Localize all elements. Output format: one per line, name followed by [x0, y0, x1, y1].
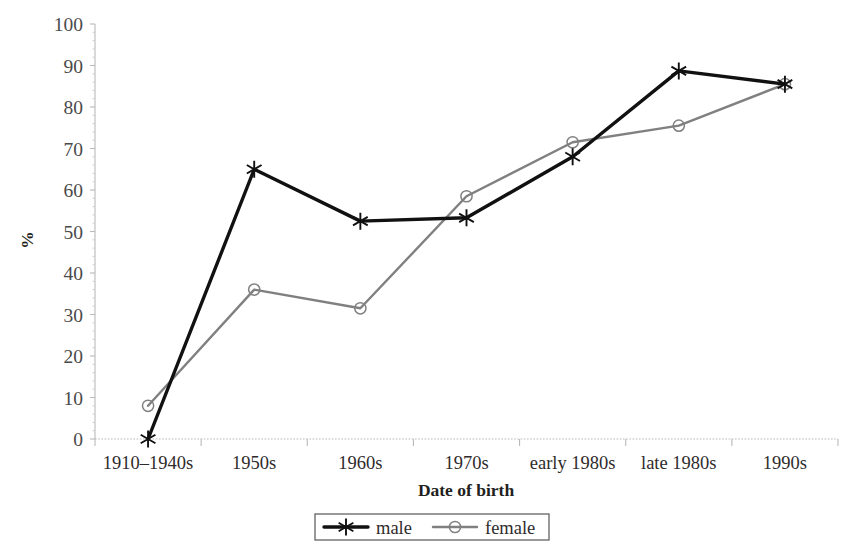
x-axis-title-text: Date of birth — [418, 480, 515, 500]
y-axis-tick-label: 10 — [64, 388, 84, 409]
x-axis-tick-label: 1990s — [763, 453, 807, 473]
y-axis-tick-label: 100 — [54, 14, 83, 35]
legend-label-male: male — [376, 518, 412, 538]
x-axis-tick-label: 1950s — [232, 453, 276, 473]
y-axis-tick-label: 70 — [64, 139, 84, 160]
y-axis-title: % — [17, 231, 37, 249]
y-axis-tick-label: 50 — [64, 222, 84, 243]
x-axis-tick-label: 1960s — [338, 453, 382, 473]
x-axis-tick-label: 1970s — [444, 453, 488, 473]
x-axis-tick-label: 1910–1940s — [103, 453, 193, 473]
y-axis-title-text: % — [17, 231, 37, 249]
legend-label-female: female — [485, 518, 535, 538]
chart-background — [0, 0, 864, 558]
chart-canvas: 0102030405060708090100 1910–1940s1950s19… — [0, 0, 864, 558]
y-axis-tick-label: 80 — [64, 97, 84, 118]
x-axis-tick-label: early 1980s — [530, 453, 616, 473]
x-axis-tick-label: late 1980s — [641, 453, 717, 473]
y-axis-tick-label: 60 — [64, 180, 84, 201]
y-axis-tick-label: 90 — [64, 56, 84, 77]
line-chart: 0102030405060708090100 1910–1940s1950s19… — [0, 0, 864, 558]
y-axis-tick-label: 30 — [64, 305, 84, 326]
y-axis-tick-label: 20 — [64, 346, 84, 367]
y-axis-tick-label: 0 — [73, 429, 83, 450]
y-axis-tick-label: 40 — [64, 263, 84, 284]
